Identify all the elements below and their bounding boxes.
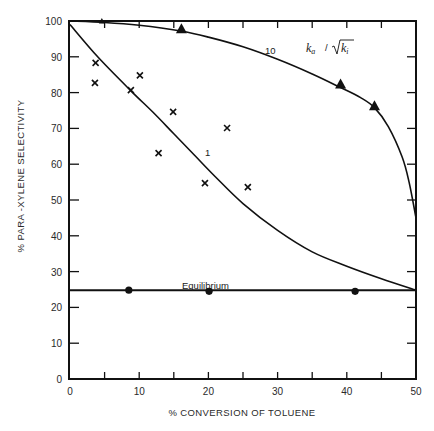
axis-tick-labels: 010203040500102030405060708090100: [45, 16, 422, 397]
y-tick-label: 90: [51, 52, 63, 63]
curve-1-label: 1: [205, 147, 210, 158]
x-tick-label: 10: [134, 386, 146, 397]
y-tick-label: 20: [51, 302, 63, 313]
equilibrium-label: Equilibrium: [182, 280, 229, 291]
y-tick-label: 0: [56, 374, 62, 385]
cross-marker-icon: [128, 87, 134, 93]
triangle-marker-icon: [369, 100, 380, 110]
selectivity-chart: 010203040500102030405060708090100 10 1 E…: [0, 0, 434, 431]
data-markers: [92, 18, 380, 295]
y-tick-label: 70: [51, 123, 63, 134]
y-tick-label: 40: [51, 231, 63, 242]
x-tick-label: 0: [67, 386, 73, 397]
y-tick-label: 30: [51, 267, 63, 278]
y-tick-label: 50: [51, 195, 63, 206]
curve-10-label: 10: [265, 45, 276, 56]
axis-ticks: [69, 21, 416, 379]
curve-10: [70, 21, 416, 218]
cross-marker-icon: [156, 150, 162, 156]
plot-frame: [69, 21, 416, 379]
x-tick-label: 20: [203, 386, 215, 397]
cross-marker-icon: [92, 80, 98, 86]
y-tick-label: 10: [51, 338, 63, 349]
y-tick-label: 100: [45, 16, 62, 27]
cross-marker-icon: [224, 125, 230, 131]
cross-marker-icon: [170, 109, 176, 115]
cross-marker-icon: [93, 60, 99, 66]
triangle-marker-icon: [335, 78, 346, 88]
x-axis-title: % CONVERSION OF TOLUENE: [168, 407, 315, 418]
x-tick-label: 40: [341, 386, 353, 397]
cross-marker-icon: [202, 180, 208, 186]
x-tick-label: 50: [410, 386, 422, 397]
dot-marker-icon: [352, 288, 359, 295]
rate-ratio-label: ka / ki: [306, 40, 354, 56]
ratio-slash: /: [325, 42, 328, 53]
triangle-marker-icon: [176, 23, 187, 33]
x-tick-label: 30: [272, 386, 284, 397]
dot-marker-icon: [125, 287, 132, 294]
y-tick-label: 80: [51, 88, 63, 99]
curve-1: [70, 25, 416, 291]
cross-marker-icon: [245, 184, 251, 190]
y-tick-label: 60: [51, 159, 63, 170]
curves: [70, 21, 416, 290]
y-axis-title: % PARA -XYLENE SELECTIVITY: [15, 99, 26, 252]
cross-marker-icon: [137, 72, 143, 78]
ratio-k-i: ki: [341, 41, 349, 56]
ratio-k-a: ka: [306, 41, 315, 56]
